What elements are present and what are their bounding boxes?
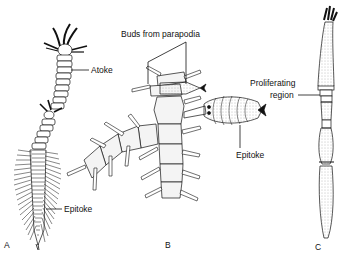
label-epitoke-a: Epitoke	[64, 204, 92, 214]
label-buds-from-parapodia: Buds from parapodia	[121, 29, 200, 39]
worm-a	[14, 24, 87, 250]
panel-label-a: A	[4, 240, 10, 250]
panel-label-c: C	[315, 242, 321, 252]
label-epitoke-b: Epitoke	[236, 150, 264, 160]
polychaete-reproduction-diagram: Atoke Epitoke A Buds from parapodia Epit…	[0, 0, 348, 255]
worm-b	[67, 66, 266, 201]
panel-label-b: B	[165, 240, 171, 250]
label-region: region	[270, 90, 294, 100]
label-proliferating: Proliferating	[250, 78, 295, 88]
label-atoke: Atoke	[91, 65, 113, 75]
worm-c	[318, 6, 337, 238]
